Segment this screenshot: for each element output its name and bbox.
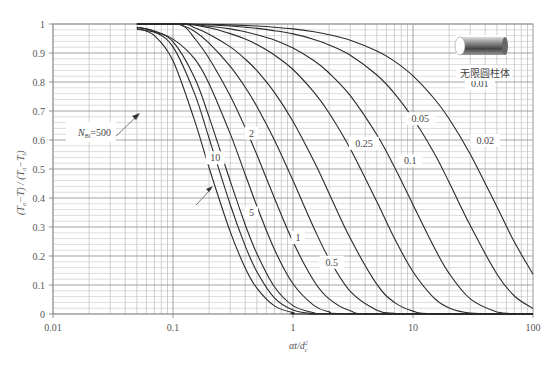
x-tick-label: 1	[291, 322, 296, 333]
x-tick-label: 100	[526, 322, 541, 333]
y-tick-label: 0.1	[33, 280, 46, 291]
x-axis-title: αt/d2c	[289, 340, 308, 353]
curve-label-0.25: 0.25	[355, 138, 373, 149]
curve-label-0.02: 0.02	[476, 135, 494, 146]
curve-label-1: 1	[295, 232, 300, 243]
shape-label: 无限圆柱体	[460, 67, 510, 79]
x-tick-label: 0.1	[167, 322, 180, 333]
y-tick-label: 0.7	[33, 106, 46, 117]
nbi-500-label: NBi=500	[77, 127, 111, 139]
y-tick-label: 0	[40, 309, 45, 320]
y-tick-label: 0.2	[33, 251, 46, 262]
cylinder-icon	[455, 35, 508, 55]
y-axis-title: (Ta−T) / (Ta−Ti)	[15, 150, 27, 215]
curve-label-2: 2	[249, 128, 254, 139]
curve-label-0.1: 0.1	[404, 155, 417, 166]
y-tick-label: 0.3	[33, 222, 46, 233]
x-tick-label: 10	[408, 322, 418, 333]
x-tick-label: 0.01	[44, 322, 62, 333]
y-tick-label: 1	[40, 19, 45, 30]
heisler-chart: 0.010.111010000.10.20.30.40.50.60.70.80.…	[0, 0, 554, 367]
curve-labels: 0.010.020.050.10.250.512510	[206, 77, 500, 268]
curve-label-5: 5	[249, 207, 254, 218]
y-tick-label: 0.5	[33, 164, 46, 175]
curve-label-10: 10	[210, 152, 220, 163]
y-tick-label: 0.6	[33, 135, 46, 146]
y-tick-label: 0.9	[33, 48, 46, 59]
curve-label-0.05: 0.05	[412, 113, 430, 124]
label-10-arrow	[196, 186, 213, 205]
curve-label-0.5: 0.5	[325, 257, 338, 268]
y-tick-label: 0.8	[33, 77, 46, 88]
y-tick-label: 0.4	[33, 193, 46, 204]
